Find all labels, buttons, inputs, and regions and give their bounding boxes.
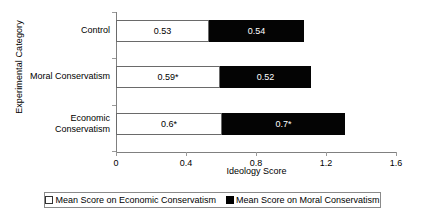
y-axis-tick	[112, 105, 116, 106]
x-axis-tick	[116, 152, 117, 156]
legend-label: Mean Score on Economic Conservatism	[55, 195, 216, 205]
category-label-line1: Control	[81, 25, 110, 35]
x-axis-tick	[396, 152, 397, 156]
bar-value-label: 0.52	[257, 72, 275, 82]
category-label-control: Control	[0, 25, 110, 36]
category-label-line2: Conservatism	[0, 124, 110, 135]
square-outline-icon	[45, 196, 53, 204]
legend-label: Mean Score on Moral Conservatism	[236, 195, 380, 205]
chart-figure: Experimental Category Control 0.53 0.54	[0, 0, 422, 224]
x-axis-title: Ideology Score	[116, 166, 397, 176]
category-label-economic-conservatism: Economic Conservatism	[0, 113, 110, 135]
chart-legend: Mean Score on Economic Conservatism Mean…	[44, 192, 381, 208]
category-label-moral-conservatism: Moral Conservatism	[0, 71, 110, 82]
bar-segment-moral-control: 0.54	[209, 20, 304, 42]
category-label-line1: Moral Conservatism	[30, 71, 110, 81]
square-filled-icon	[226, 196, 234, 204]
y-axis-tick	[112, 12, 116, 13]
bar-value-label: 0.53	[154, 26, 172, 36]
x-axis-tick	[186, 152, 187, 156]
bar-segment-economic-economic: 0.6*	[116, 113, 222, 135]
bar-value-label: 0.6*	[161, 119, 177, 129]
bar-segment-economic-moral: 0.59*	[116, 66, 220, 88]
x-axis-tick	[256, 152, 257, 156]
x-axis-tick	[326, 152, 327, 156]
category-label-line1: Economic	[0, 113, 110, 124]
bar-segment-moral-economic: 0.7*	[222, 113, 345, 135]
bar-value-label: 0.7*	[275, 119, 291, 129]
legend-item-moral-conservatism: Mean Score on Moral Conservatism	[226, 195, 380, 205]
bar-segment-moral-moral: 0.52	[220, 66, 311, 88]
plot-area: Control 0.53 0.54 Moral Conservatism 0.5…	[116, 12, 397, 152]
bar-value-label: 0.59*	[157, 72, 178, 82]
legend-item-economic-conservatism: Mean Score on Economic Conservatism	[45, 195, 216, 205]
y-axis-tick	[112, 58, 116, 59]
bar-segment-economic-control: 0.53	[116, 20, 209, 42]
bar-value-label: 0.54	[248, 26, 266, 36]
